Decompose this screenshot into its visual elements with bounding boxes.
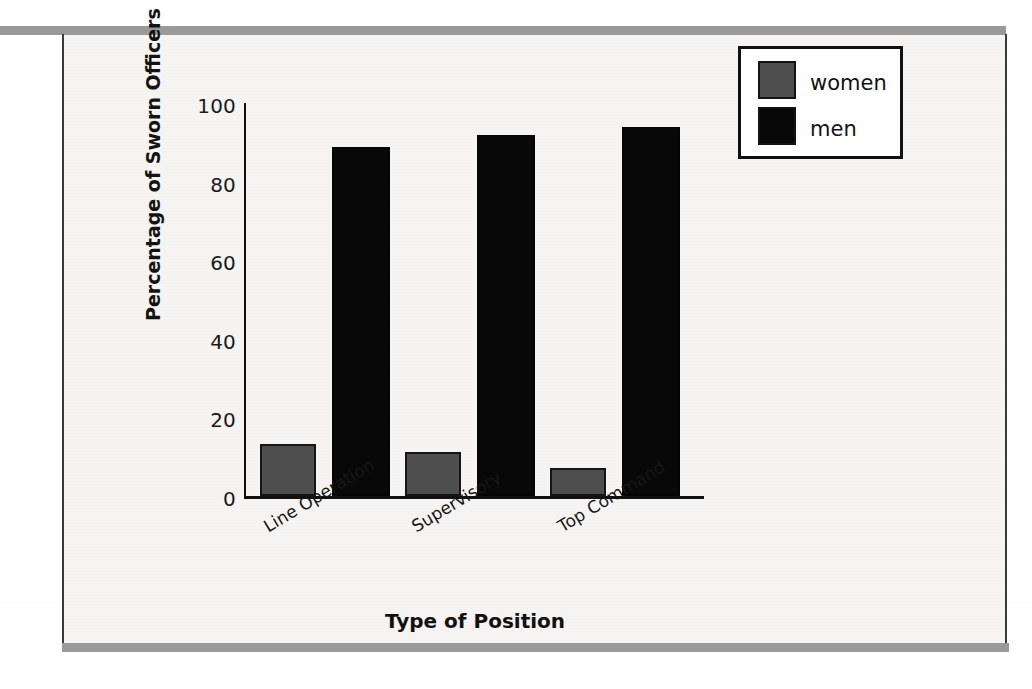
x-axis-title: Type of Position (245, 609, 705, 633)
legend-label-men: men (810, 117, 857, 141)
y-tick-label-80: 80 (184, 175, 236, 195)
legend-swatch-men-icon (758, 107, 796, 145)
page-rule-bottom (62, 643, 1009, 652)
bar-women-supervisory (405, 452, 461, 496)
bar-men-top-command (622, 127, 680, 496)
page-border-right (1005, 34, 1007, 644)
chart-legend: women men (738, 46, 903, 159)
scanned-page: Percentage of Sworn Officers by Rank 100… (0, 0, 1032, 689)
bar-men-line-operation (332, 147, 390, 496)
legend-swatch-women-icon (758, 61, 796, 99)
y-axis-title: Percentage of Sworn Officers by Rank (142, 0, 164, 321)
y-tick-label-60: 60 (184, 253, 236, 273)
y-tick-label-20: 20 (184, 410, 236, 430)
bar-men-supervisory (477, 135, 535, 496)
y-tick-label-40: 40 (184, 332, 236, 352)
bar-chart-figure: Percentage of Sworn Officers by Rank 100… (64, 35, 1005, 643)
y-tick-label-0: 0 (184, 489, 236, 509)
legend-label-women: women (810, 71, 887, 95)
plot-area (246, 95, 704, 496)
bar-women-line-operation (260, 444, 316, 496)
y-tick-label-100: 100 (184, 96, 236, 116)
